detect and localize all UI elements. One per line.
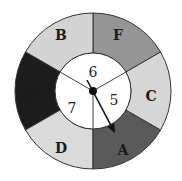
segment-label-c: C xyxy=(145,88,156,104)
segment-label-f: F xyxy=(113,27,123,43)
number-label-6: 6 xyxy=(89,64,98,80)
number-label-7: 7 xyxy=(68,100,77,116)
segment-label-b: B xyxy=(55,27,67,43)
spinner-diagram: FBEDAC675 xyxy=(0,0,182,181)
segment-label-d: D xyxy=(55,140,67,156)
segment-label-e: E xyxy=(26,88,37,104)
hub-pivot xyxy=(89,87,97,95)
number-label-5: 5 xyxy=(110,92,119,108)
segment-label-a: A xyxy=(117,142,130,158)
